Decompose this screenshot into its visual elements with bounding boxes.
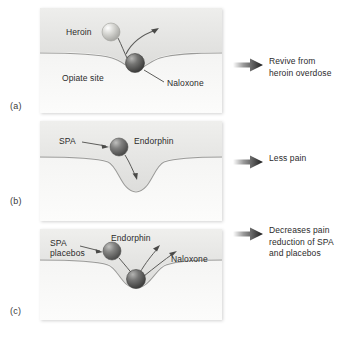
label-spa: SPA: [59, 136, 76, 146]
label-heroin: Heroin: [66, 27, 92, 37]
outcome-text-c: Decreases pain reduction of SPA and plac…: [269, 225, 334, 260]
outcome-row-b: Less pain: [233, 155, 306, 169]
label-endorphin: Endorphin: [134, 136, 174, 146]
outcome-row-a: Revive from heroin overdose: [233, 58, 331, 79]
panel-c: SPA placebos Endorphin Naloxone: [40, 229, 222, 320]
panel-tag-a: (a): [10, 101, 22, 111]
panel-a: Heroin Opiate site Naloxone: [40, 8, 222, 113]
outcome-text-b: Less pain: [269, 153, 306, 165]
membrane-diagram-a: [40, 8, 222, 113]
label-naloxone: Naloxone: [167, 78, 204, 88]
label-spa-placebos: SPA placebos: [50, 238, 85, 258]
panel-tag-b: (b): [10, 196, 22, 206]
right-arrow-icon: [233, 155, 263, 169]
right-arrow-icon: [233, 58, 263, 72]
label-opiate-site: Opiate site: [62, 73, 104, 83]
figure-root: Heroin Opiate site Naloxone: [0, 0, 360, 339]
right-arrow-icon: [233, 227, 263, 241]
panel-tag-c: (c): [10, 306, 21, 316]
label-endorphin-c: Endorphin: [111, 233, 151, 243]
panel-stack: Heroin Opiate site Naloxone: [40, 8, 222, 320]
outcome-row-c: Decreases pain reduction of SPA and plac…: [233, 227, 334, 260]
label-naloxone-c: Naloxone: [171, 254, 208, 264]
outcome-text-a: Revive from heroin overdose: [269, 56, 331, 79]
panel-b: SPA Endorphin: [40, 121, 222, 221]
